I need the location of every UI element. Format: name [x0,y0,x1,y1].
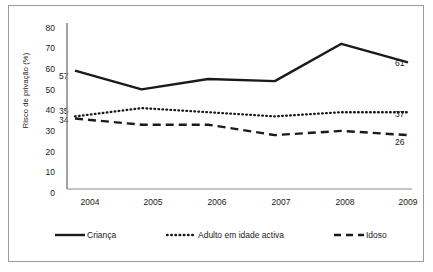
x-tick-label-2005: 2005 [131,197,175,207]
series-line-idoso [75,119,408,136]
legend-swatch-dotted-icon [166,230,196,240]
legend-item-adulto[interactable]: Adulto em idade activa [166,228,284,242]
x-tick-label-2006: 2006 [195,197,239,207]
chart-legend: Criança Adulto em idade activa Idoso [9,224,425,250]
legend-item-idoso[interactable]: Idoso [334,228,387,242]
x-tick-label-2004: 2004 [68,197,112,207]
legend-item-crianca[interactable]: Criança [55,228,116,242]
legend-swatch-solid-icon [55,230,85,240]
x-tick-label-2009: 2009 [386,197,430,207]
legend-label-adulto: Adulto em idade activa [198,230,284,240]
series-line-crianca [75,44,408,90]
plot-area: Risco de privação (%) 80 70 60 50 40 30 … [9,6,425,218]
legend-label-idoso: Idoso [366,230,387,240]
x-tick-label-2007: 2007 [259,197,303,207]
chart-figure: Risco de privação (%) 80 70 60 50 40 30 … [8,5,424,262]
x-tick-label-2008: 2008 [323,197,367,207]
legend-swatch-dashed-icon [334,230,364,240]
plot-svg [9,6,425,218]
legend-label-crianca: Criança [87,230,116,240]
series-line-adulto [75,108,408,116]
